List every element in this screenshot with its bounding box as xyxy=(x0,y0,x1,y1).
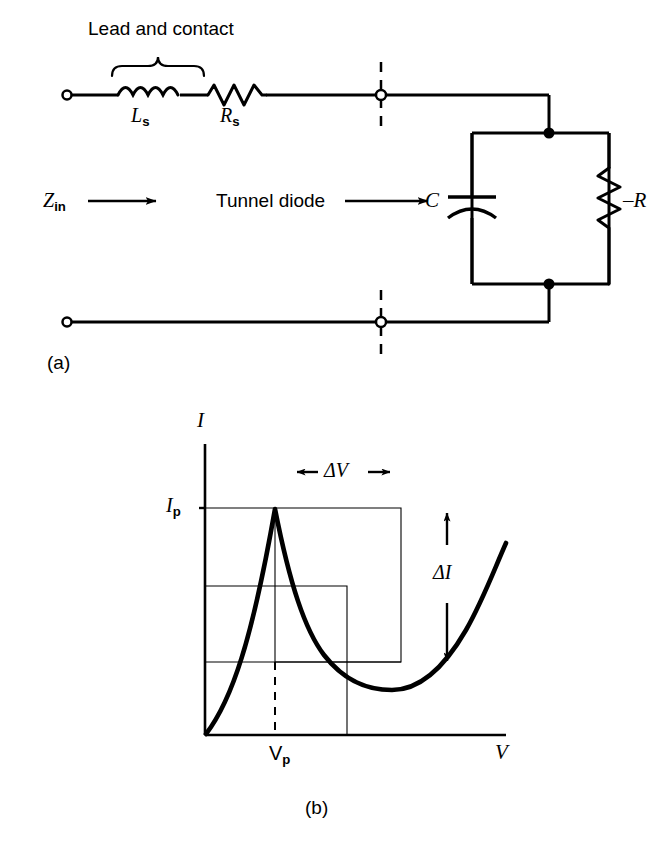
negative-resistance-label: –R xyxy=(623,188,646,213)
lead-contact-label: Lead and contact xyxy=(88,18,234,40)
delta-v-label: ΔV xyxy=(324,459,348,482)
x-axis-label: V xyxy=(495,740,508,765)
resistor-rs-symbol xyxy=(208,85,266,105)
capacitor-c-label: C xyxy=(425,188,439,213)
panel-b-caption: (b) xyxy=(305,797,328,819)
tunnel-diode-label: Tunnel diode xyxy=(216,190,325,212)
iv-characteristic-plot xyxy=(199,444,506,735)
inductor-ls-label: Ls xyxy=(131,104,149,129)
capacitor-c-symbol xyxy=(448,133,496,284)
vp-label: Vp xyxy=(269,742,290,767)
figure-canvas xyxy=(0,0,656,842)
circuit-diagram xyxy=(63,57,621,356)
figure-tunnel-diode: Lead and contact Ls Rs Zin Tunnel diode … xyxy=(0,0,656,842)
inductor-ls-symbol xyxy=(118,88,178,96)
resistor-rs-label: Rs xyxy=(220,104,240,129)
delta-i-label: ΔI xyxy=(433,561,451,584)
y-axis-label: I xyxy=(197,408,204,433)
terminal-top-left xyxy=(63,91,72,100)
junction-dot-top xyxy=(544,128,555,139)
lead-contact-brace xyxy=(112,57,204,76)
guide-box-peak xyxy=(205,508,401,662)
node-top-reference xyxy=(376,90,386,100)
terminal-bottom-left xyxy=(63,318,72,327)
panel-a-caption: (a) xyxy=(47,352,70,374)
zin-label: Zin xyxy=(43,189,66,214)
iv-curve xyxy=(206,509,506,734)
node-bottom-reference xyxy=(376,317,386,327)
ip-label: Ip xyxy=(166,494,181,519)
